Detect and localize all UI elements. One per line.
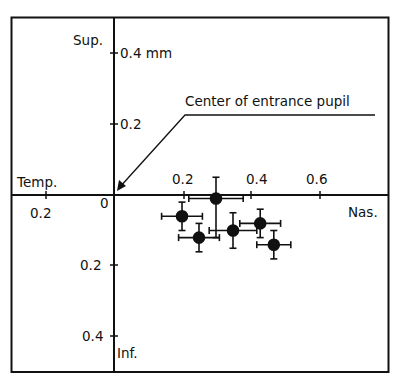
filled-circle-marker-icon [255, 218, 266, 229]
x-tick-label-neg-02: 0.2 [30, 205, 51, 221]
temp-label: Temp. [16, 174, 57, 190]
filled-circle-marker-icon [268, 239, 279, 250]
x-tick-label-04: 0.4 [246, 171, 267, 187]
sup-label: Sup. [73, 32, 103, 48]
y-tick-label-02-down: 0.2 [80, 257, 101, 273]
filled-circle-marker-icon [194, 232, 205, 243]
filled-circle-marker-icon [228, 225, 239, 236]
filled-circle-marker-icon [211, 193, 222, 204]
annotation-label: Center of entrance pupil [185, 93, 350, 109]
inf-label: Inf. [117, 345, 138, 361]
nas-label: Nas. [348, 204, 378, 220]
y-tick-label-04mm: 0.4 mm [120, 45, 172, 61]
x-tick-label-zero: 0 [100, 195, 109, 211]
y-tick-label-02-up: 0.2 [120, 116, 141, 132]
x-tick-label-06: 0.6 [306, 171, 327, 187]
x-tick-label-02: 0.2 [172, 171, 193, 187]
filled-circle-marker-icon [177, 211, 188, 222]
data-point [257, 231, 291, 259]
data-point [162, 202, 203, 230]
y-tick-label-04-down: 0.4 [82, 328, 103, 344]
data-point [179, 223, 220, 251]
data-points [162, 177, 291, 259]
chart: Sup. 0.4 mm 0.2 Temp. 0.2 0.4 0.6 0.2 0 … [0, 0, 403, 383]
